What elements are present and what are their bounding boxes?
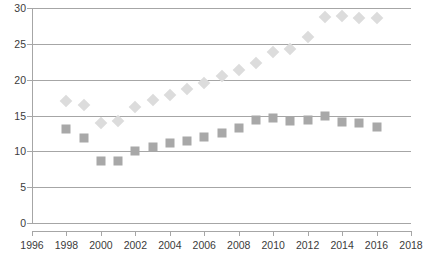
gridline-y-30 xyxy=(32,8,411,9)
data-point-lower-series-2013 xyxy=(320,112,329,121)
data-point-upper-series-2012 xyxy=(301,30,314,43)
data-point-upper-series-2000 xyxy=(95,117,108,130)
y-tick-label-0: 0 xyxy=(2,218,26,228)
y-tick-label-20: 20 xyxy=(2,75,26,85)
data-point-lower-series-2003 xyxy=(148,143,157,152)
data-point-lower-series-2000 xyxy=(96,156,105,165)
y-tick-mark-5 xyxy=(27,187,32,188)
x-tick-mark-2018 xyxy=(411,231,412,236)
y-tick-label-15: 15 xyxy=(2,111,26,121)
x-tick-mark-2006 xyxy=(204,231,205,236)
data-point-upper-series-2004 xyxy=(163,89,176,102)
x-tick-label-2012: 2012 xyxy=(296,240,319,251)
x-tick-label-2006: 2006 xyxy=(193,240,216,251)
data-point-lower-series-2006 xyxy=(200,133,209,142)
data-point-lower-series-2009 xyxy=(251,115,260,124)
x-tick-mark-2012 xyxy=(308,231,309,236)
x-tick-mark-1996 xyxy=(32,231,33,236)
data-point-upper-series-2009 xyxy=(250,57,263,70)
y-tick-mark-0 xyxy=(27,223,32,224)
data-point-upper-series-1999 xyxy=(77,99,90,112)
data-point-lower-series-2016 xyxy=(372,122,381,131)
data-point-lower-series-2001 xyxy=(114,156,123,165)
gridline-y-10 xyxy=(32,151,411,152)
y-tick-label-5: 5 xyxy=(2,182,26,192)
y-tick-mark-10 xyxy=(27,151,32,152)
x-tick-label-1998: 1998 xyxy=(55,240,78,251)
data-point-upper-series-2014 xyxy=(336,10,349,23)
x-tick-label-2004: 2004 xyxy=(158,240,181,251)
data-point-upper-series-2005 xyxy=(181,83,194,96)
x-tick-mark-2002 xyxy=(135,231,136,236)
data-point-upper-series-2015 xyxy=(353,12,366,25)
x-tick-mark-2008 xyxy=(239,231,240,236)
x-tick-mark-2010 xyxy=(273,231,274,236)
y-tick-mark-20 xyxy=(27,80,32,81)
x-tick-label-2014: 2014 xyxy=(330,240,353,251)
x-tick-label-2018: 2018 xyxy=(399,240,422,251)
data-point-upper-series-2010 xyxy=(267,46,280,59)
data-point-upper-series-2008 xyxy=(232,63,245,76)
x-tick-label-2008: 2008 xyxy=(227,240,250,251)
data-point-upper-series-1998 xyxy=(60,95,73,108)
x-axis-line xyxy=(32,231,411,232)
y-tick-mark-30 xyxy=(27,8,32,9)
chart-caption xyxy=(30,256,415,261)
y-tick-label-10: 10 xyxy=(2,146,26,156)
data-point-lower-series-1998 xyxy=(62,125,71,134)
y-tick-label-30: 30 xyxy=(2,3,26,13)
x-tick-mark-2004 xyxy=(170,231,171,236)
plot-area xyxy=(32,8,411,223)
x-tick-mark-2014 xyxy=(342,231,343,236)
y-tick-mark-25 xyxy=(27,44,32,45)
data-point-lower-series-2012 xyxy=(303,115,312,124)
data-point-lower-series-2005 xyxy=(183,137,192,146)
data-point-upper-series-2001 xyxy=(112,115,125,128)
x-tick-label-2016: 2016 xyxy=(365,240,388,251)
gridline-y-25 xyxy=(32,44,411,45)
data-point-upper-series-2002 xyxy=(129,101,142,114)
data-point-lower-series-1999 xyxy=(79,133,88,142)
x-tick-mark-2000 xyxy=(101,231,102,236)
data-point-upper-series-2016 xyxy=(370,12,383,25)
data-point-lower-series-2011 xyxy=(286,117,295,126)
x-tick-label-2010: 2010 xyxy=(261,240,284,251)
data-point-lower-series-2010 xyxy=(269,114,278,123)
data-point-lower-series-2015 xyxy=(355,118,364,127)
x-tick-label-1996: 1996 xyxy=(20,240,43,251)
data-point-upper-series-2013 xyxy=(318,11,331,24)
data-point-lower-series-2008 xyxy=(234,124,243,133)
x-tick-label-2000: 2000 xyxy=(89,240,112,251)
data-point-lower-series-2007 xyxy=(217,128,226,137)
y-tick-mark-15 xyxy=(27,116,32,117)
y-tick-label-25: 25 xyxy=(2,39,26,49)
data-point-upper-series-2003 xyxy=(146,93,159,106)
x-tick-mark-2016 xyxy=(377,231,378,236)
gridline-y-15 xyxy=(32,116,411,117)
data-point-lower-series-2002 xyxy=(131,147,140,156)
x-tick-mark-1998 xyxy=(66,231,67,236)
gridline-y-5 xyxy=(32,187,411,188)
data-point-lower-series-2004 xyxy=(165,138,174,147)
gridline-y-0 xyxy=(32,223,411,224)
data-point-lower-series-2014 xyxy=(338,117,347,126)
y-axis-labels: 051015202530 xyxy=(0,0,26,261)
x-tick-label-2002: 2002 xyxy=(124,240,147,251)
